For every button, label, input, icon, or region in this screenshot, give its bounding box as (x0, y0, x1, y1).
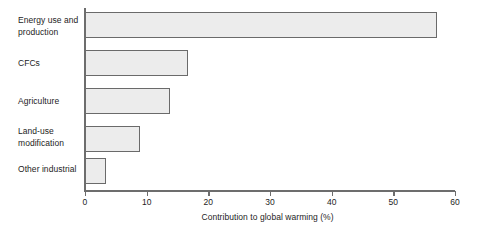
category-label-land-use-modification: Land-use modification (18, 126, 80, 149)
x-axis-tick (332, 191, 333, 196)
category-label-agriculture: Agriculture (18, 96, 80, 108)
x-axis-tick-label: 30 (265, 197, 275, 207)
bar-chart-figure: Energy use and production CFCs Agricultu… (0, 0, 479, 233)
bar-other-industrial (85, 158, 106, 184)
x-axis-title: Contribution to global warming (%) (0, 212, 479, 222)
x-axis-tick-label: 20 (204, 197, 214, 207)
bar-agriculture (85, 88, 170, 114)
x-axis-tick-label: 50 (389, 197, 399, 207)
category-label-energy-use-and-production: Energy use and production (18, 15, 80, 38)
bar-land-use-modification (85, 126, 140, 152)
x-axis-tick (147, 191, 148, 196)
plot-area (85, 8, 455, 190)
x-axis-title-text: Contribution to global warming (%) (201, 212, 333, 222)
x-axis-tick (208, 191, 209, 196)
category-label-line-1: Other industrial (18, 164, 80, 176)
category-label-other-industrial: Other industrial (18, 164, 80, 176)
category-label-line-2: production (18, 27, 80, 39)
x-axis-tick (270, 191, 271, 196)
y-axis-line (84, 8, 86, 191)
category-label-cfcs: CFCs (18, 58, 80, 70)
category-label-line-1: Energy use and (18, 15, 80, 27)
category-label-line-1: Agriculture (18, 96, 80, 108)
x-axis-tick-label: 0 (83, 197, 88, 207)
category-label-line-1: CFCs (18, 58, 80, 70)
x-axis-tick-label: 60 (450, 197, 460, 207)
x-axis-tick (455, 191, 456, 196)
x-axis-tick (85, 191, 86, 196)
bar-cfcs (85, 50, 188, 76)
category-label-line-2: modification (18, 138, 80, 150)
bar-energy-use-and-production (85, 12, 437, 38)
category-label-line-1: Land-use (18, 126, 80, 138)
x-axis-tick-label: 40 (327, 197, 337, 207)
x-axis-tick-label: 10 (142, 197, 152, 207)
x-axis-tick (393, 191, 394, 196)
